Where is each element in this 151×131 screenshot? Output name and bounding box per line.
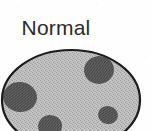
cell-diagram xyxy=(0,0,151,131)
figure-panel: Normal xyxy=(0,0,151,131)
